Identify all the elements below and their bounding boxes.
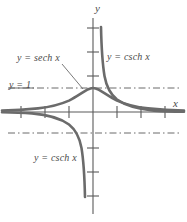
curve-label-sech: y = sech x bbox=[17, 53, 60, 63]
asymptote-label-y-equals-1: y = 1 bbox=[9, 80, 31, 90]
curve-label-csch-lower: y = csch x bbox=[34, 153, 77, 163]
sech-label-leader-line bbox=[62, 64, 83, 89]
x-axis-label: x bbox=[173, 98, 178, 109]
y-axis-label: y bbox=[95, 3, 100, 14]
hyperbolic-functions-figure: y = sech x y = csch x y = csch x y = 1 y… bbox=[0, 0, 187, 222]
curve-label-csch-upper: y = csch x bbox=[107, 52, 150, 62]
plot-canvas bbox=[0, 0, 187, 222]
